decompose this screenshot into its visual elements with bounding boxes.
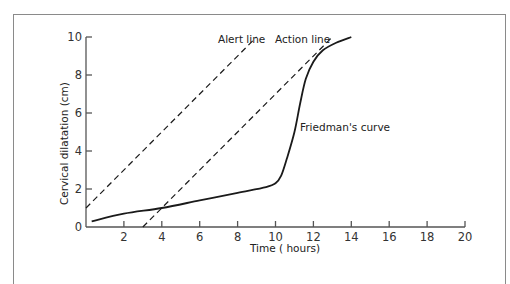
x-tick-label: 6: [196, 230, 203, 244]
action-line-label: Action line: [275, 33, 330, 45]
x-tick-label: 18: [420, 230, 435, 244]
alert-line-label: Alert line: [218, 33, 265, 45]
x-tick-label: 20: [458, 230, 473, 244]
y-ticks: 0246810: [67, 30, 92, 234]
x-tick-label: 14: [344, 230, 359, 244]
y-tick-label: 8: [75, 68, 82, 82]
y-tick-label: 0: [75, 220, 82, 234]
y-tick-label: 4: [75, 144, 82, 158]
y-tick-label: 6: [75, 106, 82, 120]
y-axis-title: Cervical dilatation (cm): [58, 82, 70, 205]
alert-line-series: [86, 37, 257, 208]
x-tick-label: 2: [120, 230, 127, 244]
x-tick-label: 4: [158, 230, 165, 244]
axes: [86, 37, 465, 227]
x-tick-label: 8: [234, 230, 241, 244]
friedman-curve-label: Friedman's curve: [300, 121, 390, 133]
x-tick-label: 16: [382, 230, 397, 244]
y-tick-label: 10: [67, 30, 82, 44]
y-tick-label: 2: [75, 182, 82, 196]
x-axis-title: Time ( hours): [249, 242, 320, 254]
x-ticks: 2468101214161820: [120, 221, 472, 244]
